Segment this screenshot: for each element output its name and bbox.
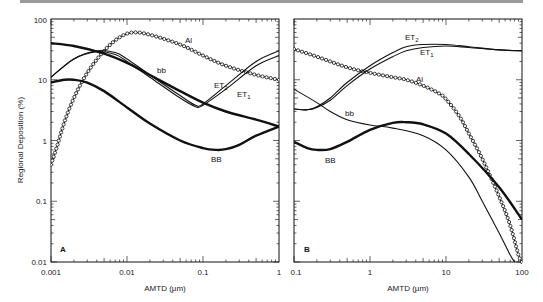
marker-circle: [97, 56, 100, 59]
marker-circle: [62, 123, 65, 126]
marker-circle: [518, 257, 521, 260]
marker-circle: [213, 59, 216, 62]
marker-circle: [328, 60, 331, 63]
marker-circle: [517, 253, 520, 256]
marker-circle: [398, 77, 401, 80]
marker-circle: [201, 54, 204, 57]
b-xtick-1: 1: [368, 268, 373, 277]
panel-b-label: B: [304, 245, 310, 254]
marker-circle: [509, 224, 512, 227]
marker-circle: [512, 237, 515, 240]
marker-circle: [190, 48, 193, 51]
b-label-BB: BB: [325, 156, 336, 165]
marker-circle: [402, 78, 405, 81]
marker-circle: [105, 46, 108, 49]
a-xtick-1: 1: [277, 268, 282, 277]
marker-circle: [471, 139, 474, 142]
marker-circle: [277, 78, 280, 81]
marker-circle: [430, 88, 433, 91]
marker-circle: [357, 69, 360, 72]
marker-circle: [273, 77, 276, 80]
marker-circle: [422, 84, 425, 87]
marker-circle: [73, 95, 76, 98]
marker-circle: [253, 73, 256, 76]
marker-circle: [447, 100, 450, 103]
a-xtick-0-01: 0.01: [119, 268, 135, 277]
curve-b-bb: [294, 89, 515, 262]
ytick-10: 10: [38, 76, 47, 85]
marker-circle: [459, 117, 462, 120]
marker-circle: [463, 124, 466, 127]
marker-circle: [441, 94, 444, 97]
marker-circle: [481, 158, 484, 161]
marker-circle: [63, 119, 66, 122]
marker-circle: [495, 189, 498, 192]
marker-circle: [51, 159, 54, 162]
a-label-al: Al: [185, 36, 192, 45]
marker-circle: [516, 249, 519, 252]
marker-circle: [122, 34, 125, 37]
a-x-axis-title: AMTD (µm): [144, 284, 186, 293]
marker-circle: [134, 31, 137, 34]
marker-circle: [477, 151, 480, 154]
marker-circle: [444, 97, 447, 100]
marker-circle: [369, 71, 372, 74]
marker-circle: [61, 127, 64, 130]
marker-circle: [344, 65, 347, 68]
marker-circle: [52, 155, 55, 158]
marker-circle: [312, 54, 315, 57]
marker-circle: [352, 68, 355, 71]
marker-circle: [111, 41, 114, 44]
marker-circle: [340, 64, 343, 67]
marker-circle: [236, 68, 239, 71]
marker-circle: [394, 76, 397, 79]
marker-circle: [296, 49, 299, 52]
marker-circle: [336, 63, 339, 66]
marker-circle: [85, 73, 88, 76]
marker-circle: [224, 64, 227, 67]
marker-circle: [228, 66, 231, 69]
marker-circle: [78, 84, 81, 87]
marker-circle: [497, 193, 500, 196]
panel-b-frame: [294, 19, 522, 262]
marker-circle: [479, 154, 482, 157]
marker-circle: [485, 166, 488, 169]
marker-circle: [205, 56, 208, 59]
marker-circle: [381, 74, 384, 77]
marker-circle: [269, 77, 272, 80]
marker-circle: [449, 103, 452, 106]
marker-circle: [75, 92, 78, 95]
marker-circle: [332, 61, 335, 64]
marker-circle: [410, 80, 413, 83]
marker-circle: [53, 151, 56, 154]
panel-a-label: A: [60, 245, 66, 254]
marker-circle: [469, 136, 472, 139]
marker-circle: [92, 63, 95, 66]
marker-circle: [406, 79, 409, 82]
a-label-et1: ET1: [237, 90, 251, 100]
marker-circle: [209, 58, 212, 61]
marker-circle: [500, 201, 503, 204]
marker-circle: [386, 75, 389, 78]
a-label-et2: ET2: [214, 81, 228, 91]
marker-circle: [69, 103, 72, 106]
marker-circle: [58, 135, 61, 138]
marker-circle: [320, 57, 323, 60]
marker-circle: [249, 72, 252, 75]
a-label-BB: BB: [211, 155, 222, 164]
marker-circle: [437, 92, 440, 95]
marker-circle: [467, 132, 470, 135]
marker-circle: [505, 212, 508, 215]
marker-circle: [56, 143, 59, 146]
marker-circle: [179, 43, 182, 46]
ytick-0-01: 0.01: [31, 258, 47, 267]
b-label-et1: ET1: [420, 48, 434, 58]
marker-circle: [232, 67, 235, 70]
panel-b-curves: [292, 44, 523, 263]
marker-circle: [194, 50, 197, 53]
marker-circle: [82, 77, 85, 80]
marker-circle: [498, 197, 501, 200]
marker-circle: [373, 72, 376, 75]
marker-circle: [300, 50, 303, 53]
marker-circle: [159, 36, 162, 39]
